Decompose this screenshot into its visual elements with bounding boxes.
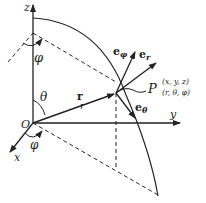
point-cartesian-label: (x, y, z) [162,77,189,86]
point-spherical-label: (r, θ, φ) [162,88,190,97]
x-axis-label: x [14,151,21,164]
origin-label: O [21,118,30,131]
e-r-label: er [139,48,151,62]
phi-bottom-label: φ [30,138,39,152]
y-axis-label: y [169,108,177,121]
spherical-coordinates-diagram: z y x O φ θ φ r r eφ er eθ P (x, y, z) (… [0,0,206,203]
z-axis-label: z [23,1,30,14]
phi-top-label: φ [34,50,44,65]
dashed-upper-plane [8,33,33,62]
point-p-label: P [147,81,157,96]
theta-label: θ [40,90,48,104]
length-r-label: r [80,100,86,111]
diagram-canvas: z y x O φ θ φ r r eφ er eθ P (x, y, z) (… [0,0,206,203]
dashed-upper-radial [33,33,116,82]
e-theta-vector [116,93,135,118]
e-phi-label: eφ [113,45,128,59]
phi-bottom-arc [25,131,42,137]
dashed-base-radial [33,123,158,195]
e-theta-label: eθ [135,101,148,115]
